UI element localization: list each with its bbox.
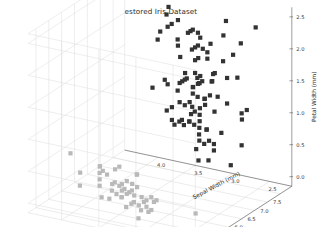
data-point	[144, 205, 148, 209]
y-tick-label: 3.5	[194, 170, 202, 176]
data-point	[177, 119, 181, 123]
data-point	[170, 105, 174, 109]
data-point	[110, 182, 114, 186]
x-tick-label: 7.5	[273, 199, 281, 205]
data-point	[188, 100, 192, 104]
z-tick-label: 2.5	[296, 14, 304, 20]
data-point	[107, 197, 111, 201]
data-point	[110, 189, 114, 193]
data-point	[124, 205, 128, 209]
data-point	[139, 208, 143, 212]
data-point	[202, 142, 206, 146]
z-tick-label: 0.0	[296, 174, 304, 180]
data-point	[203, 103, 207, 107]
data-point	[165, 108, 169, 112]
data-point	[170, 118, 174, 122]
data-point	[191, 28, 195, 32]
data-point	[185, 76, 189, 80]
data-point	[125, 179, 129, 183]
data-point	[219, 131, 223, 135]
data-point	[152, 200, 156, 204]
data-point	[240, 143, 244, 147]
data-point	[142, 200, 146, 204]
data-point	[117, 165, 121, 169]
data-point	[98, 184, 102, 188]
data-point	[221, 33, 225, 37]
data-point	[105, 172, 109, 176]
data-point	[210, 79, 214, 83]
z-tick-label: 2.0	[296, 46, 304, 52]
y-tick-label: 4.0	[157, 162, 165, 168]
data-point	[183, 103, 187, 107]
data-point	[239, 41, 243, 45]
data-point	[78, 171, 82, 175]
data-point	[136, 216, 140, 220]
z-tick-label: 1.0	[296, 110, 304, 116]
z-tick-label: 1.5	[296, 78, 304, 84]
data-point	[163, 78, 167, 82]
data-point	[198, 113, 202, 117]
data-point	[193, 58, 197, 62]
data-point	[189, 112, 193, 116]
data-point	[216, 95, 220, 99]
data-point	[178, 55, 182, 59]
data-point	[205, 57, 209, 61]
data-point	[150, 86, 154, 90]
data-point	[240, 111, 244, 115]
data-point	[208, 93, 212, 97]
z-tick-label: 0.5	[296, 142, 304, 148]
z-axis-label: Petal Width (mm)	[311, 71, 317, 122]
data-point	[198, 119, 202, 123]
data-point	[117, 184, 121, 188]
data-point	[135, 173, 139, 177]
data-point	[166, 5, 170, 9]
data-point	[225, 76, 229, 80]
data-point	[183, 71, 187, 75]
data-point	[196, 95, 200, 99]
data-point	[197, 139, 201, 143]
data-point	[166, 82, 170, 86]
data-point	[254, 25, 258, 29]
data-point	[190, 47, 194, 51]
data-point	[191, 85, 195, 89]
x-tick-label: 7.0	[260, 208, 268, 214]
data-point	[192, 123, 196, 127]
data-point	[140, 195, 144, 199]
data-point	[212, 110, 216, 114]
data-point	[207, 139, 211, 143]
data-point	[197, 132, 201, 136]
data-point	[191, 91, 195, 95]
data-point	[129, 202, 133, 206]
data-point	[206, 158, 210, 162]
data-point	[182, 123, 186, 127]
data-point	[98, 177, 102, 181]
data-point	[204, 128, 208, 132]
data-point	[146, 210, 150, 214]
data-point	[114, 192, 118, 196]
data-point	[194, 211, 198, 215]
data-point	[149, 195, 153, 199]
data-point	[98, 171, 102, 175]
data-point	[120, 195, 124, 199]
data-point	[205, 50, 209, 54]
data-point	[198, 106, 202, 110]
data-point	[164, 12, 168, 16]
data-point	[198, 36, 202, 40]
data-point	[245, 108, 249, 112]
data-point	[208, 42, 212, 46]
data-point	[170, 22, 174, 26]
data-point	[186, 31, 190, 35]
data-point	[194, 147, 198, 151]
data-point	[212, 148, 216, 152]
data-point	[130, 182, 134, 186]
data-point	[172, 123, 176, 127]
data-point	[221, 59, 225, 63]
data-point	[156, 38, 160, 42]
data-point	[212, 142, 216, 146]
data-point	[98, 164, 102, 168]
data-point	[176, 89, 180, 93]
data-point	[113, 167, 117, 171]
data-point	[193, 109, 197, 113]
data-point	[224, 19, 228, 23]
data-point	[176, 44, 180, 48]
